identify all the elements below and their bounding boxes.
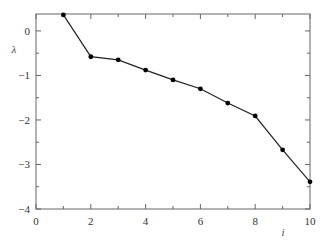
y-tick-label: −4 [18, 203, 30, 215]
data-series [61, 12, 312, 184]
data-point-marker [88, 54, 93, 59]
tick-labels: 02468100−1−2−3−4 [18, 25, 316, 227]
y-axis-label: λ [11, 43, 17, 55]
data-point-marker [253, 114, 258, 119]
y-tick-label: −2 [18, 114, 30, 126]
x-tick-label: 4 [143, 215, 149, 227]
plot-frame [36, 14, 310, 209]
data-point-marker [225, 101, 230, 106]
line-chart: 02468100−1−2−3−4 i λ [0, 0, 324, 245]
data-point-marker [198, 86, 203, 91]
series-line [63, 15, 310, 182]
y-tick-label: −3 [18, 158, 30, 170]
data-point-marker [280, 147, 285, 152]
data-point-marker [308, 179, 313, 184]
x-tick-label: 6 [198, 215, 204, 227]
data-point-marker [61, 12, 66, 17]
x-tick-label: 8 [252, 215, 258, 227]
x-axis-label: i [281, 226, 284, 238]
x-tick-label: 2 [88, 215, 94, 227]
y-tick-label: −1 [18, 69, 30, 81]
y-tick-label: 0 [25, 25, 31, 37]
data-point-marker [171, 77, 176, 82]
data-point-marker [143, 68, 148, 73]
x-tick-label: 0 [33, 215, 39, 227]
axis-ticks [36, 14, 310, 209]
x-tick-label: 10 [305, 215, 317, 227]
data-point-marker [116, 57, 121, 62]
